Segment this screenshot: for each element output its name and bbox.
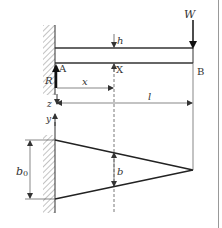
- label-y: y: [45, 114, 52, 124]
- label-h: h: [117, 35, 123, 46]
- label-l: l: [148, 91, 151, 102]
- label-z: z: [46, 99, 52, 109]
- label-b-end: B: [197, 66, 204, 77]
- label-x: x: [82, 76, 88, 87]
- beam-side-view: [55, 48, 193, 63]
- label-a: A: [58, 63, 67, 74]
- cantilever-beam-diagram: W R A h X B x l z y: [0, 0, 222, 228]
- label-b: b: [117, 166, 123, 177]
- label-b0: b0: [16, 165, 28, 178]
- length-dimension: [57, 63, 193, 106]
- label-x-section: X: [116, 64, 124, 75]
- label-r: R: [44, 75, 53, 86]
- tapered-beam-plan-view: [55, 106, 193, 199]
- label-w: W: [184, 8, 197, 21]
- fixed-wall-plan-view: [43, 122, 55, 213]
